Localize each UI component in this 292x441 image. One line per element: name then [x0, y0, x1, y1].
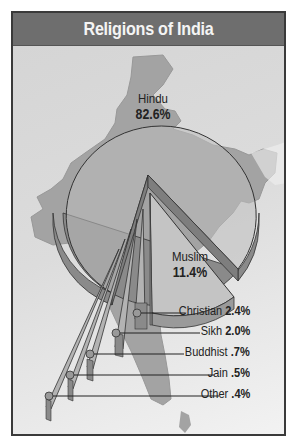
- label-jain: Jain .5%: [208, 366, 250, 380]
- label-christian: Christian 2.4%: [178, 304, 250, 318]
- label-buddhist: Buddhist .7%: [185, 345, 250, 359]
- label-sikh: Sikh 2.0%: [200, 324, 250, 338]
- pie-slice-other: [46, 249, 119, 409]
- label-hindu: Hindu 82.6%: [127, 91, 180, 122]
- chart-frame: Religions of India: [11, 11, 286, 436]
- label-muslim: Muslim 11.4%: [164, 249, 217, 280]
- label-other: Other .4%: [200, 387, 250, 401]
